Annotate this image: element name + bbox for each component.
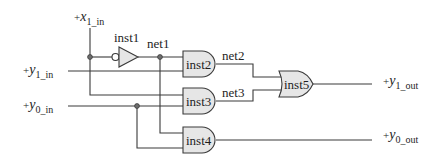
gate-inst2: inst2: [183, 51, 215, 77]
port-x1-in: +x1_in: [74, 9, 104, 27]
inst2-label: inst2: [186, 57, 211, 72]
junction-x1: [88, 55, 93, 60]
gate-inst3: inst3: [183, 88, 215, 114]
gate-inst5: inst5: [279, 71, 313, 97]
inst5-label: inst5: [284, 77, 309, 92]
net2-label: net2: [222, 48, 244, 63]
port-y0-out: +y0_out: [383, 127, 418, 145]
wires: [68, 28, 372, 148]
port-y1-in: +y1_in: [23, 62, 53, 80]
circuit-diagram: inst1 net1 inst2 inst3 inst4 net2 net3 i…: [0, 0, 443, 157]
inverter-triangle: [119, 47, 138, 67]
port-y0-in: +y0_in: [23, 97, 53, 115]
port-y1-out: +y1_out: [383, 73, 418, 91]
junction-net1: [158, 55, 163, 60]
wire-net2: [216, 64, 283, 77]
net1-label: net1: [147, 36, 169, 51]
inst4-label: inst4: [186, 133, 212, 148]
junction-y0: [135, 104, 140, 109]
inst1-label: inst1: [114, 30, 139, 45]
inverter-bubble: [112, 54, 119, 61]
gate-inst1: inst1: [112, 30, 139, 67]
net3-label: net3: [222, 85, 244, 100]
gate-inst4: inst4: [183, 127, 215, 153]
inst3-label: inst3: [186, 94, 211, 109]
